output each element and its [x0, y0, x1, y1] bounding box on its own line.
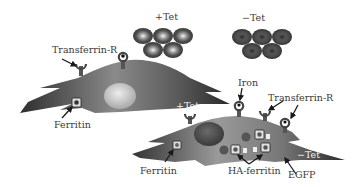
ferritin-label-bottom: Ferritin	[140, 166, 177, 176]
condition-label-minus-tet: −Tet	[297, 150, 320, 160]
arrow-icon	[62, 59, 76, 66]
transferrin-receptor-icon	[76, 64, 86, 76]
iron-label: Iron	[238, 78, 258, 88]
transferrin-r-label-top: Transferrin-R	[52, 45, 117, 55]
rbc-group-minus-tet	[232, 29, 292, 59]
egfp-label: EGFP	[288, 170, 316, 180]
ha-ferritin-label: HA-ferritin	[228, 166, 281, 176]
nucleus-dark	[194, 122, 224, 146]
egfp-icon	[243, 148, 247, 153]
arrow-icon	[240, 88, 242, 100]
rbc-minus-tet-label: −Tet	[242, 13, 265, 23]
transferrin-receptor-iron-icon	[235, 102, 243, 117]
rbc-plus-tet-label: +Tet	[155, 12, 178, 22]
egfp-icon	[253, 147, 257, 152]
rbc-group-plus-tet	[133, 28, 193, 58]
egfp-icon	[266, 134, 270, 139]
condition-label-plus-tet: +Tet	[176, 101, 199, 111]
ferritin-label-top: Ferritin	[54, 120, 91, 130]
transferrin-receptor-icon	[185, 114, 195, 124]
transferrin-r-label-bottom: Transferrin-R	[268, 93, 333, 103]
arrow-icon	[291, 105, 298, 118]
nucleus-light	[104, 83, 136, 109]
